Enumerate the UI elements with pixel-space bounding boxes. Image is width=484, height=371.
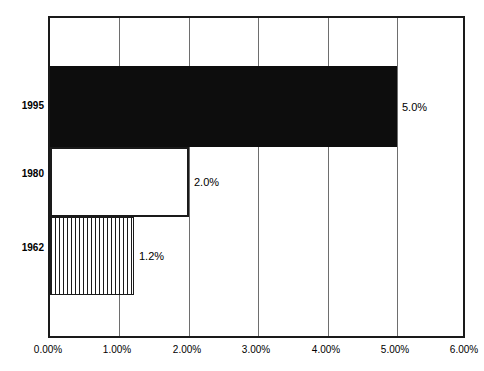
x-tick-label-6: 6.00% xyxy=(450,345,478,355)
plot-area: 5.0% 2.0% 1.2% xyxy=(48,16,465,338)
bar-1962[interactable] xyxy=(50,217,134,295)
bar-chart: 1995 1980 1962 5.0% 2.0% 1.2% 0.00% 1.00… xyxy=(0,0,484,371)
x-tick-label-0: 0.00% xyxy=(34,345,62,355)
x-tick-label-4: 4.00% xyxy=(312,345,340,355)
category-label-1995: 1995 xyxy=(22,101,44,111)
y-axis-category-labels: 1995 1980 1962 xyxy=(0,0,44,371)
bar-value-1962: 1.2% xyxy=(139,251,164,262)
x-tick-label-3: 3.00% xyxy=(242,345,270,355)
x-tick-label-1: 1.00% xyxy=(103,345,131,355)
bar-value-1995: 5.0% xyxy=(402,101,427,112)
bar-1995[interactable] xyxy=(50,66,397,147)
bar-band-1962: 1.2% xyxy=(50,217,463,295)
x-tick-label-2: 2.00% xyxy=(173,345,201,355)
bar-band-1995: 5.0% xyxy=(50,66,463,147)
bar-1980[interactable] xyxy=(50,147,189,217)
bar-band-1980: 2.0% xyxy=(50,147,463,217)
bar-value-1980: 2.0% xyxy=(194,177,219,188)
category-label-1980: 1980 xyxy=(22,169,44,179)
category-label-1962: 1962 xyxy=(22,243,44,253)
x-tick-label-5: 5.00% xyxy=(381,345,409,355)
